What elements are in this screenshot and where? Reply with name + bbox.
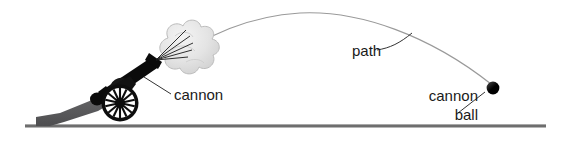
label-cannon-ball-line1: cannon xyxy=(429,87,478,104)
ground xyxy=(25,125,546,127)
diagram-canvas: cannon path cannon ball xyxy=(0,0,564,144)
text-labels: cannon path cannon ball xyxy=(174,42,478,123)
trajectory-path xyxy=(172,13,491,84)
label-cannon-ball-line2: ball xyxy=(455,106,478,123)
path-curve xyxy=(172,13,491,84)
wheel-hub xyxy=(115,98,125,108)
label-cannon: cannon xyxy=(174,86,223,103)
cannon-ball xyxy=(487,82,500,95)
cannon-wheel xyxy=(102,85,139,122)
cannon-diagram: cannon path cannon ball xyxy=(0,0,564,144)
cannon-ball-circle xyxy=(487,82,500,95)
leader-cannon xyxy=(144,77,171,94)
leader-path xyxy=(377,33,412,50)
label-path: path xyxy=(352,42,381,59)
